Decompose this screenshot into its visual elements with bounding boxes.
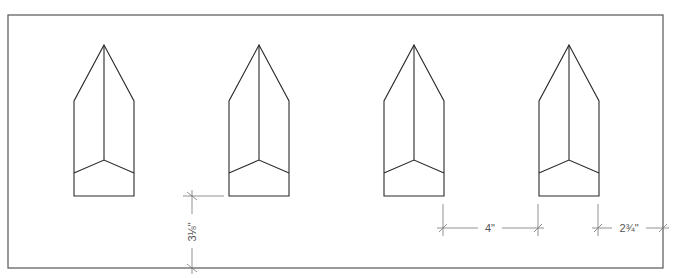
dimension-label-edge: 2¾": [619, 222, 638, 234]
pointed-post-2: [229, 45, 289, 196]
technical-drawing: 3⅛" 4" 2¾": [0, 0, 677, 278]
dimension-label-spacing: 4": [485, 222, 495, 234]
pointed-post-3: [384, 45, 444, 196]
pointed-post-4: [539, 45, 599, 196]
post-shapes-group: [74, 45, 599, 196]
pointed-post-1: [74, 45, 134, 196]
dimension-label-vertical: 3⅛": [186, 222, 198, 241]
